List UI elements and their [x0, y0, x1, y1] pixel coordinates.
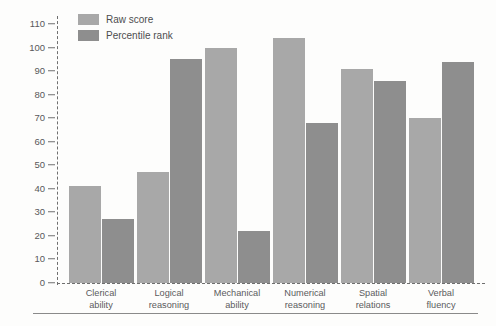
y-axis-tick-mark [48, 47, 55, 48]
y-axis-tick-label: 50 [34, 160, 45, 171]
y-axis-tick-mark [48, 70, 55, 71]
bar-group [137, 14, 202, 283]
bar-raw-score [273, 38, 305, 283]
y-axis-tick-label: 100 [29, 42, 45, 53]
y-axis-tick-label: 80 [34, 89, 45, 100]
y-axis-tick-70: 70 [20, 113, 55, 123]
y-axis-tick-label: 60 [34, 136, 45, 147]
category-label-line: ability [64, 300, 138, 312]
y-axis-tick-20: 20 [20, 231, 55, 241]
bar-percentile-rank [374, 81, 406, 283]
bar-percentile-rank [238, 231, 270, 283]
category-label: Verbalfluency [404, 288, 478, 311]
bar-group [205, 14, 270, 283]
y-axis-tick-label: 70 [34, 112, 45, 123]
category-label-line: reasoning [132, 300, 206, 312]
y-axis-tick-40: 40 [20, 184, 55, 194]
bar-raw-score [341, 69, 373, 283]
y-axis-tick-100: 100 [20, 43, 55, 53]
legend-swatch-icon [78, 30, 99, 41]
category-label: Numericalreasoning [268, 288, 342, 311]
bar-group [69, 14, 134, 283]
bar-chart-figure: 1101009080706050403020100 Clericalabilit… [0, 0, 496, 326]
legend-label: Raw score [106, 15, 153, 25]
category-label-line: ability [200, 300, 274, 312]
category-label: Mechanicalability [200, 288, 274, 311]
category-label-line: Clerical [64, 288, 138, 300]
y-axis-tick-label: 0 [40, 277, 45, 288]
y-axis-tick-60: 60 [20, 137, 55, 147]
y-axis-tick-mark [48, 94, 55, 95]
figure-bottom-rule [33, 313, 478, 314]
y-axis-tick-0: 0 [20, 278, 55, 288]
y-axis-tick-90: 90 [20, 66, 55, 76]
legend-label: Percentile rank [106, 31, 173, 41]
category-label-line: Numerical [268, 288, 342, 300]
y-axis-tick-mark [48, 141, 55, 142]
y-axis-tick-80: 80 [20, 90, 55, 100]
bar-group [409, 14, 474, 283]
chart-legend: Raw scorePercentile rank [78, 14, 173, 46]
y-axis-tick-50: 50 [20, 161, 55, 171]
y-axis-tick-label: 10 [34, 254, 45, 265]
y-axis-tick-mark [48, 117, 55, 118]
category-label-line: relations [336, 300, 410, 312]
y-axis-tick-mark [48, 212, 55, 213]
y-axis-tick-mark [48, 282, 55, 283]
plot-area [57, 14, 482, 283]
bar-raw-score [205, 48, 237, 283]
x-axis-baseline [57, 283, 485, 284]
y-axis-tick-mark [48, 188, 55, 189]
legend-item: Percentile rank [78, 30, 173, 41]
bar-percentile-rank [170, 59, 202, 283]
y-axis-tick-mark [48, 235, 55, 236]
category-label-line: fluency [404, 300, 478, 312]
y-axis-tick-label: 90 [34, 65, 45, 76]
y-axis-tick-label: 20 [34, 230, 45, 241]
y-axis-tick-mark [48, 23, 55, 24]
category-label-line: reasoning [268, 300, 342, 312]
bar-percentile-rank [306, 123, 338, 283]
y-axis-tick-30: 30 [20, 208, 55, 218]
y-axis-tick-110: 110 [20, 19, 55, 29]
legend-item: Raw score [78, 14, 173, 25]
bar-group [341, 14, 406, 283]
category-label-line: Mechanical [200, 288, 274, 300]
bar-group [273, 14, 338, 283]
y-axis-tick-label: 40 [34, 183, 45, 194]
category-label: Logicalreasoning [132, 288, 206, 311]
y-axis-tick-10: 10 [20, 255, 55, 265]
category-label: Spatialrelations [336, 288, 410, 311]
bar-raw-score [137, 172, 169, 283]
bar-percentile-rank [102, 219, 134, 283]
category-label: Clericalability [64, 288, 138, 311]
category-label-line: Verbal [404, 288, 478, 300]
legend-swatch-icon [78, 14, 99, 25]
bar-percentile-rank [442, 62, 474, 283]
category-label-line: Logical [132, 288, 206, 300]
bar-raw-score [69, 186, 101, 283]
y-axis-tick-label: 30 [34, 207, 45, 218]
bar-raw-score [409, 118, 441, 283]
y-axis-tick-label: 110 [30, 18, 45, 29]
y-axis-tick-mark [48, 259, 55, 260]
y-axis-tick-mark [48, 165, 55, 166]
category-label-line: Spatial [336, 288, 410, 300]
